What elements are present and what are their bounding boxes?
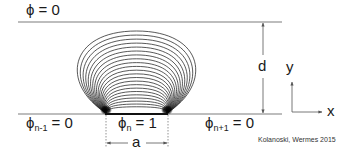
right-potential-label: ϕn+1 = 0 bbox=[205, 114, 254, 133]
left-value: = 0 bbox=[47, 114, 72, 131]
equipotential-lines bbox=[77, 31, 195, 113]
center-value: = 1 bbox=[131, 114, 156, 131]
left-potential-label: ϕn-1 = 0 bbox=[26, 114, 73, 133]
credit-text: Kolanoski, Wermes 2015 bbox=[258, 136, 336, 143]
left-subscript: n-1 bbox=[34, 123, 47, 133]
top-potential-label: ϕ = 0 bbox=[26, 1, 60, 18]
right-subscript: n+1 bbox=[213, 123, 228, 133]
y-axis-label: y bbox=[286, 58, 294, 75]
equipotential-line bbox=[102, 78, 171, 113]
equipotential-line bbox=[104, 85, 169, 113]
width-dimension-label: a bbox=[132, 133, 140, 150]
x-axis-label: x bbox=[327, 102, 335, 119]
equipotential-line bbox=[106, 104, 167, 113]
equipotential-line bbox=[86, 43, 187, 113]
gap-dimension-label: d bbox=[258, 57, 266, 74]
center-potential-label: ϕn = 1 bbox=[118, 114, 157, 133]
equipotential-line bbox=[106, 107, 167, 113]
equipotential-line bbox=[95, 59, 179, 113]
right-value: = 0 bbox=[229, 114, 254, 131]
